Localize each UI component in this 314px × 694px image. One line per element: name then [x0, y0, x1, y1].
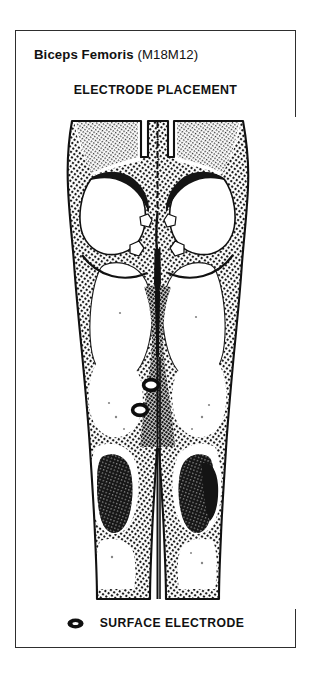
muscle-name: Biceps Femoris	[34, 47, 134, 62]
anatomy-illustration	[16, 117, 297, 609]
posterior-body-diagram	[16, 117, 297, 609]
muscle-code: (M18M12)	[137, 47, 198, 62]
electrode-distal	[133, 405, 148, 416]
electrode-placement-card: Biceps Femoris (M18M12) ELECTRODE PLACEM…	[15, 30, 296, 648]
legend: SURFACE ELECTRODE	[16, 613, 295, 633]
surface-electrode-icon	[67, 618, 84, 629]
legend-label: SURFACE ELECTRODE	[100, 616, 244, 630]
section-heading: ELECTRODE PLACEMENT	[16, 83, 295, 97]
electrode-proximal	[144, 380, 159, 391]
page-title: Biceps Femoris (M18M12)	[34, 47, 198, 62]
